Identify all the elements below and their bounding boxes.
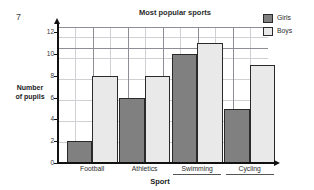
bar-football-girls <box>67 141 92 163</box>
bar-swimming-girls <box>172 54 197 163</box>
y-axis-tick-mark <box>54 98 57 99</box>
category-underline-annotation <box>173 174 221 175</box>
y-axis-title-line1: Number <box>6 84 54 93</box>
chart-legend: GirlsBoys <box>263 14 311 40</box>
bar-athletics-girls <box>119 98 144 163</box>
y-axis-tick-mark <box>54 54 57 55</box>
bar-football-boys <box>92 76 117 163</box>
bar-cycling-girls <box>224 109 249 163</box>
legend-swatch-icon <box>263 27 273 36</box>
bar-cycling-boys <box>250 65 275 163</box>
y-axis-tick-mark <box>54 141 57 142</box>
y-axis-tick-label: 0 <box>40 160 54 167</box>
y-axis-tick-mark <box>54 32 57 33</box>
y-axis-tick-label: 12 <box>40 29 54 36</box>
bar-athletics-boys <box>145 76 170 163</box>
y-axis-tick-label: 2 <box>40 138 54 145</box>
x-axis-category-label: Football <box>66 165 118 172</box>
y-axis-title-line2: of pupils <box>6 93 54 102</box>
legend-swatch-icon <box>263 14 273 23</box>
y-axis-tick-mark <box>54 119 57 120</box>
question-number: 7 <box>16 12 21 22</box>
y-axis-tick-mark <box>54 76 57 77</box>
legend-label: Girls <box>277 15 291 22</box>
legend-label: Boys <box>277 28 292 35</box>
x-axis-category-label: Athletics <box>119 165 171 172</box>
legend-item-girls: Girls <box>263 14 311 23</box>
y-axis-tick-label: 10 <box>40 51 54 58</box>
y-axis-title: Number of pupils <box>6 84 54 102</box>
y-axis-arrow-icon <box>54 18 60 24</box>
y-axis-tick-mark <box>54 163 57 164</box>
y-axis-line <box>57 23 59 164</box>
bar-swimming-boys <box>197 43 222 163</box>
y-axis-tick-label: 4 <box>40 116 54 123</box>
y-axis-tick-label: 8 <box>40 73 54 80</box>
legend-item-boys: Boys <box>263 27 311 36</box>
x-axis-category-label: Swimming <box>171 165 223 172</box>
chart-title: Most popular sports <box>110 8 240 17</box>
x-axis-category-label: Cycling <box>224 165 276 172</box>
x-axis-line <box>57 162 275 164</box>
x-axis-title: Sport <box>125 177 195 186</box>
plot-area <box>58 27 268 163</box>
category-underline-annotation <box>226 174 274 175</box>
